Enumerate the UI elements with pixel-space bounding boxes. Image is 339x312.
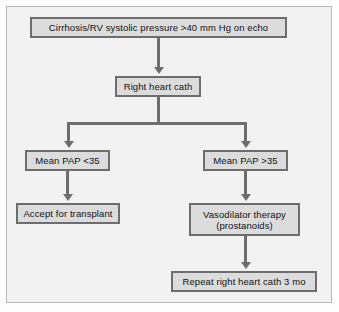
node-mean-pap-low: Mean PAP <35 <box>25 150 110 171</box>
node-vasodilator-therapy: Vasodilator therapy (prostanoids) <box>189 203 300 236</box>
connector-split-bar <box>67 122 247 125</box>
node-repeat-right-heart-cath-label: Repeat right heart cath 3 mo <box>182 276 305 287</box>
connector-screening-to-rhc <box>157 38 160 69</box>
arrowhead-vasodilator-to-repeat <box>241 262 251 269</box>
flowchart-figure: Cirrhosis/RV systolic pressure >40 mm Hg… <box>0 0 339 312</box>
connector-paphigh-to-vasodilator <box>244 171 247 196</box>
arrowhead-screening-to-rhc <box>154 67 164 74</box>
node-vasodilator-therapy-label-line2: (prostanoids) <box>216 220 273 231</box>
connector-split-right-leg <box>244 122 247 143</box>
arrowhead-paplow-to-accept <box>63 194 73 201</box>
node-screening-label: Cirrhosis/RV systolic pressure >40 mm Hg… <box>49 22 269 33</box>
node-screening: Cirrhosis/RV systolic pressure >40 mm Hg… <box>30 17 287 38</box>
connector-paplow-to-accept <box>66 171 69 196</box>
node-vasodilator-therapy-label-line1: Vasodilator therapy <box>203 209 286 220</box>
node-right-heart-cath: Right heart cath <box>115 76 201 97</box>
node-accept-for-transplant-label: Accept for transplant <box>23 208 112 219</box>
node-mean-pap-high-label: Mean PAP >35 <box>213 155 277 166</box>
connector-vasodilator-to-repeat <box>244 236 247 264</box>
arrowhead-split-right <box>241 141 251 148</box>
node-accept-for-transplant: Accept for transplant <box>16 203 120 224</box>
node-mean-pap-low-label: Mean PAP <35 <box>35 155 99 166</box>
arrowhead-split-left <box>64 141 74 148</box>
node-mean-pap-high: Mean PAP >35 <box>203 150 288 171</box>
connector-rhc-stem <box>157 97 160 124</box>
arrowhead-paphigh-to-vasodilator <box>241 194 251 201</box>
node-repeat-right-heart-cath: Repeat right heart cath 3 mo <box>171 271 317 292</box>
connector-split-left-leg <box>67 122 70 143</box>
figure-frame: Cirrhosis/RV systolic pressure >40 mm Hg… <box>6 6 332 303</box>
node-right-heart-cath-label: Right heart cath <box>124 81 193 92</box>
